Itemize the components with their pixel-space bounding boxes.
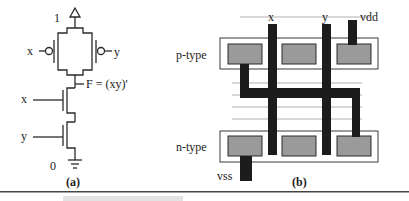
- figure-separator-rule: [0, 191, 409, 193]
- vdd-label: vdd: [360, 10, 378, 24]
- ground-icon: [68, 160, 82, 168]
- cutoff-text-fragment: [63, 196, 183, 201]
- poly-x: [268, 24, 277, 155]
- output-metal-route: [240, 64, 360, 137]
- panel-a-caption: (a): [66, 175, 80, 189]
- poly-x-label: x: [268, 10, 274, 24]
- supply-triangle-icon: [70, 8, 80, 17]
- nmos-bottom-input-label: y: [21, 129, 27, 143]
- output-label: F = (xy)': [86, 77, 128, 91]
- ptype-diffusion-right: [337, 44, 371, 64]
- panel-b-layout: [220, 16, 378, 181]
- pmos-left-input-label: x: [27, 44, 33, 58]
- panel-b-caption: (b): [292, 175, 307, 189]
- ntype-diffusion-right: [337, 136, 371, 156]
- pmos-right-input-label: y: [114, 45, 120, 59]
- ptype-diffusion-left: [228, 44, 262, 64]
- nmos-transistor-icon: [33, 122, 75, 160]
- pmos-transistor-icon: [92, 40, 112, 63]
- ground-label: 0: [50, 159, 56, 173]
- nmos-transistor-icon: [33, 88, 75, 122]
- vss-contact: [240, 156, 252, 181]
- ptype-diffusion-middle: [282, 44, 316, 64]
- nand-gate-figure: 1 x y F = (xy)' x y 0 (a): [0, 0, 409, 201]
- nmos-top-input-label: x: [21, 92, 27, 106]
- ptype-label: p-type: [176, 48, 207, 62]
- vdd-contact: [348, 20, 357, 45]
- ntype-diffusion-middle: [282, 136, 316, 156]
- ntype-diffusion-left: [228, 136, 262, 156]
- ntype-label: n-type: [176, 140, 207, 154]
- supply-label: 1: [54, 11, 60, 25]
- vss-label: vss: [217, 169, 233, 183]
- poly-y-label: y: [322, 10, 328, 24]
- pmos-transistor-icon: [39, 40, 58, 63]
- poly-y: [322, 24, 331, 155]
